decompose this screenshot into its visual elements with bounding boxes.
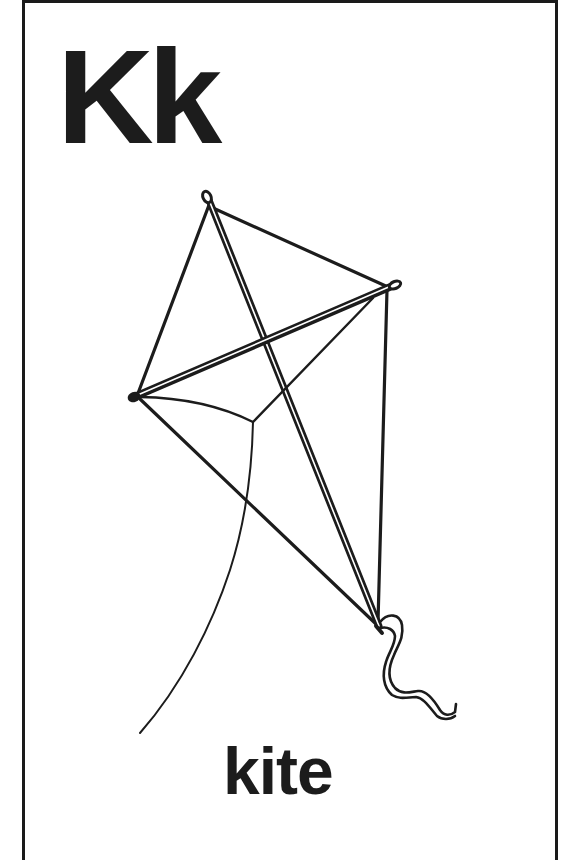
letter-heading: Kk (57, 30, 216, 164)
word-label: kite (223, 738, 333, 804)
